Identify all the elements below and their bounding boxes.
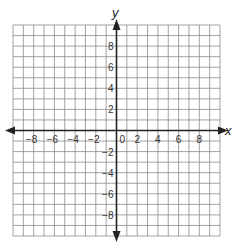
x-tick-label: 4 [155,134,161,145]
y-tick-label: −2 [102,147,114,158]
y-axis-down-arrow-icon [113,231,121,242]
x-tick-label: 6 [176,134,182,145]
x-axis-left-arrow-icon [5,127,15,135]
y-tick-label: 4 [108,83,114,94]
y-tick-label: −4 [102,168,114,179]
x-axis-label: x [224,123,232,138]
x-tick-label: −4 [67,134,79,145]
x-tick-label: 8 [197,134,203,145]
y-tick-label: −6 [102,189,114,200]
y-tick-label: −8 [102,210,114,221]
y-axis-up-arrow-icon [113,19,121,30]
y-tick-label: 6 [108,62,114,73]
x-tick-label: 0 [120,134,126,145]
x-tick-label: 2 [134,134,140,145]
y-axis-label: y [111,5,120,20]
x-tick-label: −2 [88,134,100,145]
y-tick-label: 8 [108,41,114,52]
coordinate-plane: x y −8−6−4−202468 8642−2−4−6−8 [0,0,242,249]
y-tick-label: 2 [108,104,114,115]
x-tick-label: −6 [47,134,59,145]
x-tick-label: −8 [26,134,38,145]
axes [5,19,228,242]
x-tick-labels: −8−6−4−202468 [26,134,203,145]
